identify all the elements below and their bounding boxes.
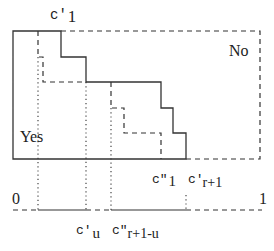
label-cu-prime: c'u xyxy=(76,223,101,241)
label-one: 1 xyxy=(259,190,267,207)
dotted-projections xyxy=(38,57,186,210)
label-zero: 0 xyxy=(12,190,20,207)
label-no: No xyxy=(229,42,249,59)
label-cr1-prime: c'r+1 xyxy=(188,172,222,190)
diagram: c'1 No Yes c"1 c'r+1 0 1 c'u c"r+1-u xyxy=(0,0,274,251)
label-yes: Yes xyxy=(20,128,43,145)
label-c1-prime: c'1 xyxy=(50,7,76,26)
label-c1-dprime: c"1 xyxy=(152,172,176,189)
inner-dashed-staircase-2 xyxy=(111,82,161,159)
label-cr1u-dprime: c"r+1-u xyxy=(112,223,159,241)
